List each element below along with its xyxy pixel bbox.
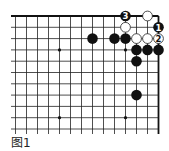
black-stone bbox=[131, 45, 142, 56]
black-stone bbox=[131, 56, 142, 67]
black-stone: 1 bbox=[153, 22, 164, 33]
move-number-label: 3 bbox=[123, 11, 129, 21]
white-stone bbox=[143, 34, 153, 44]
black-stone bbox=[142, 45, 153, 56]
black-stone: 3 bbox=[120, 11, 131, 22]
figure-caption: 图1 bbox=[11, 137, 31, 150]
black-stone bbox=[120, 33, 131, 44]
black-stone bbox=[87, 33, 98, 44]
star-point bbox=[124, 116, 127, 119]
black-stone bbox=[131, 90, 142, 101]
move-number-label: 2 bbox=[156, 34, 162, 44]
star-point bbox=[124, 48, 127, 51]
white-stone bbox=[121, 22, 131, 32]
move-number-label: 1 bbox=[156, 23, 162, 33]
black-stone bbox=[153, 45, 164, 56]
black-stone bbox=[109, 33, 120, 44]
white-stone bbox=[143, 11, 153, 21]
star-point bbox=[58, 116, 61, 119]
white-stone: 2 bbox=[154, 34, 164, 44]
white-stone bbox=[132, 34, 142, 44]
star-point bbox=[58, 48, 61, 51]
go-board: 231 bbox=[0, 0, 169, 151]
